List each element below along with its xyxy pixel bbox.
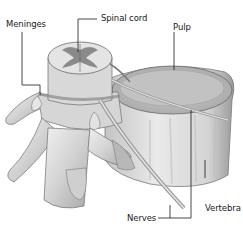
label-spinal-cord: Spinal cord bbox=[101, 14, 147, 23]
spine-illustration bbox=[0, 0, 243, 235]
vertebral-processes bbox=[6, 92, 135, 208]
anatomy-diagram: Meninges Spinal cord Pulp Vertebra Nerve… bbox=[0, 0, 243, 235]
label-vertebra: Vertebra bbox=[205, 204, 241, 213]
label-meninges: Meninges bbox=[6, 20, 46, 29]
label-pulp: Pulp bbox=[173, 23, 191, 32]
spinal-cord bbox=[40, 42, 120, 105]
label-nerves: Nerves bbox=[127, 214, 156, 223]
